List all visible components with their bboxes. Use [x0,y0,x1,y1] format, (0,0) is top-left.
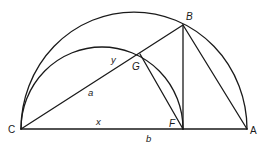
segment-cb [21,25,183,129]
segment-ba [183,25,247,129]
point-label-a: A [250,125,257,136]
geometry-diagram: C A F B G y a x b [0,0,264,151]
point-label-c: C [8,124,15,135]
segment-gf [140,54,183,129]
point-label-b: B [186,11,193,22]
point-label-g: G [132,61,140,72]
point-label-f: F [169,118,176,129]
segment-label-y: y [110,54,117,65]
segment-label-a: a [88,87,93,98]
segment-label-b: b [146,133,151,144]
segment-label-x: x [95,116,102,127]
small-semicircle-arc [21,47,183,129]
